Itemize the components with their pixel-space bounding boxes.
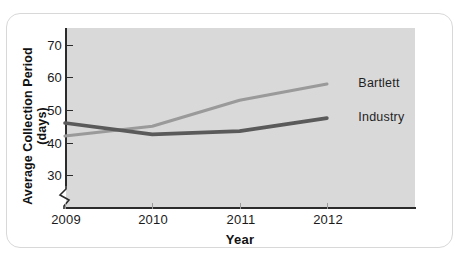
series-label-bartlett: Bartlett [358,76,399,90]
x-axis-title: Year [180,232,300,247]
series-label-industry: Industry [358,110,404,124]
series-lines [0,0,467,260]
y-axis-title: Average Collection Period (days) [21,31,49,221]
line-chart: 70 60 50 40 30 2009 2010 2011 2012 Bartl… [0,0,467,260]
